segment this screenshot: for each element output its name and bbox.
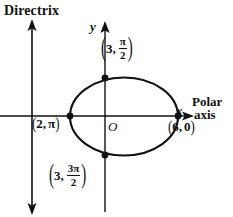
open-paren: ( — [49, 162, 54, 188]
fraction-denominator: 2 — [70, 176, 78, 188]
comma: , — [43, 117, 46, 130]
fraction-denominator: 2 — [119, 49, 127, 61]
polar-axis-label: Polar axis — [192, 96, 222, 121]
polar-conic-figure: Directrix y x O Polar axis ( 3 , π 2 ) (… — [0, 0, 233, 217]
polar-axis-line2: axis — [194, 109, 222, 122]
open-paren: ( — [101, 35, 106, 61]
directrix-label: Directrix — [4, 4, 59, 18]
close-paren: ) — [128, 35, 133, 61]
point-label-right: ( 6 , 0 ) — [168, 120, 195, 133]
x-axis — [0, 111, 194, 120]
close-paren: ) — [55, 115, 59, 131]
open-paren: ( — [32, 115, 36, 131]
comma: , — [179, 120, 182, 133]
point-bottom-theta: 3π 2 — [67, 163, 81, 188]
fraction-numerator: π — [119, 36, 127, 49]
comma: , — [113, 42, 116, 55]
point-label-bottom: ( 3 , 3π 2 ) — [49, 163, 86, 188]
point-left-theta: π — [48, 117, 55, 130]
comma: , — [61, 169, 64, 182]
close-paren: ) — [81, 162, 86, 188]
fraction-numerator: 3π — [67, 163, 81, 176]
point-label-left: ( 2 , π ) — [32, 117, 60, 130]
point-label-top: ( 3 , π 2 ) — [101, 36, 133, 61]
point-top-theta: π 2 — [119, 36, 127, 61]
point-dot-left — [67, 113, 74, 120]
point-dot-bottom — [102, 152, 109, 159]
close-paren: ) — [191, 118, 195, 134]
origin-label: O — [108, 120, 117, 133]
open-paren: ( — [168, 118, 172, 134]
y-axis-label: y — [90, 20, 96, 33]
point-dot-top — [102, 75, 109, 82]
x-axis-label: x — [176, 104, 183, 117]
